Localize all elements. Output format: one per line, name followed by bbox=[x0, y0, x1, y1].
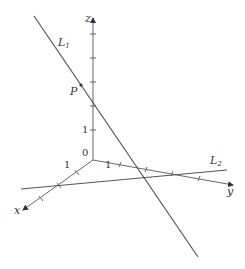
z-axis bbox=[90, 18, 96, 160]
line-l1 bbox=[34, 16, 198, 257]
diagram-canvas: z x y 0 1 1 1 L1 L2 P bbox=[0, 0, 245, 269]
origin-label: 0 bbox=[82, 147, 88, 158]
y-axis-label: y bbox=[226, 185, 234, 198]
x-tick-label: 1 bbox=[64, 159, 70, 170]
line-l1-label: L1 bbox=[57, 36, 70, 50]
point-p-label: P bbox=[69, 85, 78, 98]
line-l2 bbox=[21, 170, 227, 189]
z-tick-label: 1 bbox=[82, 124, 88, 135]
point-p-marker bbox=[79, 83, 82, 86]
y-tick-label: 1 bbox=[105, 159, 111, 170]
x-axis-label: x bbox=[14, 204, 21, 217]
z-axis-label: z bbox=[84, 12, 91, 25]
line-l2-label: L2 bbox=[209, 154, 222, 168]
